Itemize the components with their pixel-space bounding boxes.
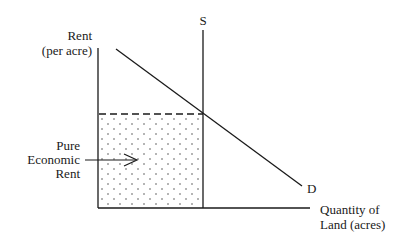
rent-region-label-line1: Pure	[56, 138, 80, 153]
economic-rent-diagram: Rent (per acre) S D Quantity of Land (ac…	[0, 0, 408, 238]
rent-region-label-line3: Rent	[55, 166, 80, 181]
pure-economic-rent-area	[99, 115, 203, 208]
supply-label: S	[199, 13, 206, 28]
x-axis-label-line1: Quantity of	[320, 202, 380, 217]
y-axis-label-line2: (per acre)	[42, 43, 92, 58]
x-axis-label-line2: Land (acres)	[320, 217, 385, 232]
rent-region-label-line2: Economic	[27, 152, 80, 167]
y-axis-label-line1: Rent	[67, 28, 92, 43]
demand-label: D	[307, 181, 316, 196]
